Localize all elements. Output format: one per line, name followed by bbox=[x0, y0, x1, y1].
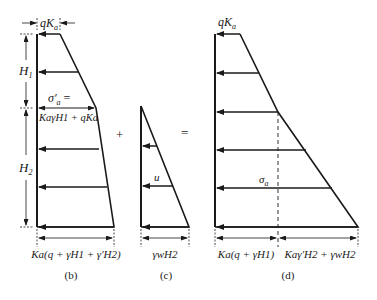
lateral-earth-pressure-diagram: qKa H1 H2 σ′a= KaγH1 + qKa Ka(q + γH1 + … bbox=[0, 0, 377, 300]
sigma-expression: KaγH1 + qKa bbox=[38, 112, 98, 123]
sigma-label: σ′a= bbox=[48, 91, 71, 107]
bottom-left-expression: Ka(q + γH1) bbox=[217, 248, 275, 261]
panel-d: qKa σa Ka(q + γH1) Kaγ′H2 + γwH2 (d) bbox=[215, 15, 358, 282]
caption-c: (c) bbox=[160, 269, 173, 282]
qka-label: qKa bbox=[40, 16, 58, 32]
sigma-a-label: σa bbox=[259, 173, 268, 188]
pressure-outline bbox=[37, 34, 114, 227]
total-pressure-outline bbox=[215, 34, 358, 227]
caption-d: (d) bbox=[282, 269, 295, 282]
bottom-right-expression: Kaγ′H2 + γwH2 bbox=[283, 248, 356, 260]
u-label: u bbox=[154, 171, 160, 183]
bottom-expression: γwH2 bbox=[152, 248, 178, 260]
caption-b: (b) bbox=[65, 269, 78, 282]
bottom-expression: Ka(q + γH1 + γ′H2) bbox=[30, 248, 121, 261]
panel-b: qKa H1 H2 σ′a= KaγH1 + qKa Ka(q + γH1 + … bbox=[18, 16, 121, 282]
plus-operator: + bbox=[116, 127, 123, 142]
equals-operator: = bbox=[181, 125, 188, 140]
h2-label: H2 bbox=[18, 160, 32, 177]
qka-label: qKa bbox=[218, 15, 236, 31]
h1-label: H1 bbox=[18, 63, 32, 80]
